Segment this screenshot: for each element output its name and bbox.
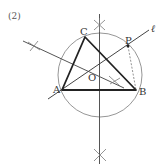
problem-number: (2): [8, 12, 21, 21]
label-p: P: [125, 36, 132, 46]
geometry-figure: (2) C P ℓ O A B: [0, 0, 161, 164]
construction-diagram: [0, 0, 161, 164]
label-a: A: [53, 85, 60, 95]
label-b: B: [139, 87, 146, 97]
label-c: C: [80, 27, 88, 37]
label-o: O: [88, 73, 96, 83]
label-line-l: ℓ: [151, 24, 155, 34]
